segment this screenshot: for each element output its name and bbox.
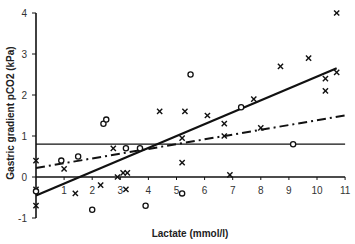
x-tick-label: 8 <box>258 185 264 196</box>
y-tick-label: -1 <box>18 213 27 224</box>
cross-marker <box>306 56 311 61</box>
circle-marker <box>104 117 109 122</box>
y-tick-label: 2 <box>21 90 27 101</box>
cross-marker <box>180 160 185 165</box>
circle-marker <box>188 72 193 77</box>
circle-marker <box>291 142 296 147</box>
y-tick-label: 4 <box>21 8 27 19</box>
y-tick-label: 1 <box>21 131 27 142</box>
y-tick-label: 3 <box>21 49 27 60</box>
regression-dashdot-line <box>36 116 345 168</box>
x-tick-label: 2 <box>89 185 95 196</box>
scatter-chart: -1012341234567891011 Lactate (mmol/l) Ga… <box>0 0 355 244</box>
circle-marker <box>59 158 64 163</box>
circle-marker <box>180 191 185 196</box>
x-axis-label: Lactate (mmol/l) <box>152 228 229 239</box>
cross-marker <box>205 113 210 118</box>
x-tick-label: 11 <box>340 185 351 196</box>
x-tick-label: 6 <box>202 185 208 196</box>
circle-marker <box>123 146 128 151</box>
y-tick-label: 0 <box>21 172 27 183</box>
cross-marker <box>278 64 283 69</box>
circle-marker <box>33 189 38 194</box>
x-tick-label: 7 <box>230 185 236 196</box>
x-tick-label: 9 <box>286 185 292 196</box>
circle-marker <box>137 146 142 151</box>
cross-marker <box>180 135 185 140</box>
cross-marker <box>182 109 187 114</box>
y-axis-label: Gastric gradient pCO2 (kPa) <box>5 46 16 179</box>
cross-marker <box>222 121 227 126</box>
circle-marker <box>90 207 95 212</box>
x-tick-label: 10 <box>311 185 323 196</box>
cross-marker <box>323 76 328 81</box>
cross-marker <box>323 88 328 93</box>
cross-marker <box>111 146 116 151</box>
cross-marker <box>62 166 67 171</box>
cross-marker <box>251 97 256 102</box>
cross-marker <box>123 187 128 192</box>
x-tick-label: 3 <box>118 185 124 196</box>
cross-marker <box>334 70 339 75</box>
axis-labels: Lactate (mmol/l) Gastric gradient pCO2 (… <box>5 46 228 239</box>
cross-marker <box>73 191 78 196</box>
circle-marker <box>143 203 148 208</box>
data-points <box>33 10 339 212</box>
cross-marker <box>334 10 339 15</box>
cross-marker <box>98 183 103 188</box>
x-tick-label: 4 <box>146 185 152 196</box>
cross-marker <box>125 170 130 175</box>
x-tick-label: 1 <box>61 185 67 196</box>
cross-marker <box>157 109 162 114</box>
x-tick-label: 5 <box>174 185 180 196</box>
circle-marker <box>239 105 244 110</box>
circle-marker <box>76 154 81 159</box>
